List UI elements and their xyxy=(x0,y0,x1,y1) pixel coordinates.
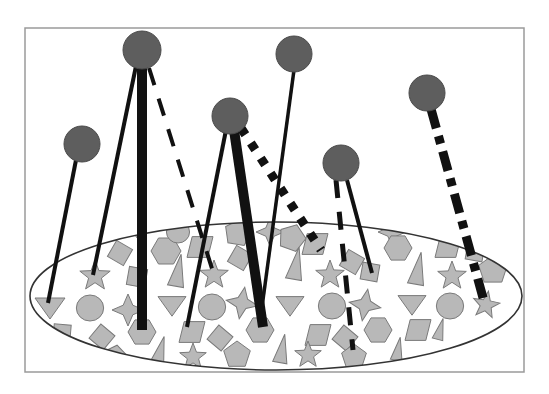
sampler-ball-ball-4 xyxy=(276,36,312,72)
population-shape-circle xyxy=(318,293,345,319)
sampler-balls xyxy=(64,31,445,181)
sampler-ball-ball-3 xyxy=(212,98,248,134)
population-shape-circle xyxy=(436,293,463,319)
population-shape-triangle-up xyxy=(76,342,85,360)
diagram-canvas xyxy=(0,0,549,394)
population-shape-circle xyxy=(76,295,103,321)
sampler-ball-ball-5 xyxy=(323,145,359,181)
sampler-ball-ball-1 xyxy=(64,126,100,162)
sampler-ball-ball-6 xyxy=(409,75,445,111)
sampler-ball-ball-2 xyxy=(123,31,161,69)
sampling-diagram xyxy=(0,0,549,394)
population-group xyxy=(30,217,522,370)
population-shape-circle xyxy=(198,294,225,320)
population-shape-circle xyxy=(166,221,189,243)
